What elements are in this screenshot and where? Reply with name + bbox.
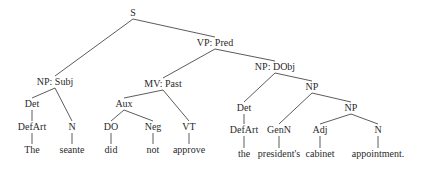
tree-node-aux: Aux — [114, 99, 133, 109]
tree-node-defart1: DefArt — [17, 122, 47, 132]
tree-edge-np-subj-det1 — [32, 88, 55, 98]
tree-edge-np2-genn — [279, 93, 312, 124]
tree-node-np3: NP — [344, 103, 359, 113]
tree-node-adj: Adj — [312, 125, 329, 135]
tree-edge-aux-neg — [124, 110, 153, 121]
tree-node-the1: The — [23, 145, 41, 155]
tree-node-det2: Det — [236, 103, 252, 113]
tree-node-np-dobj: NP: DObj — [254, 62, 296, 72]
tree-node-do: DO — [103, 122, 119, 132]
tree-edge-np-dobj-det2 — [244, 73, 275, 102]
tree-edge-np-dobj-np2 — [275, 73, 312, 81]
tree-node-vt: VT — [181, 122, 196, 132]
tree-node-did: did — [104, 145, 119, 155]
tree-node-defart2: DefArt — [229, 125, 259, 135]
tree-node-approve: approve — [172, 145, 206, 155]
tree-node-genn: GenN — [266, 125, 292, 135]
tree-node-vp-pred: VP: Pred — [196, 38, 234, 48]
tree-node-np2: NP — [305, 82, 320, 92]
tree-edge-np-subj-n1 — [55, 88, 72, 121]
tree-node-s: S — [129, 8, 137, 18]
tree-node-seante: seante — [59, 145, 86, 155]
tree-node-det1: Det — [24, 99, 40, 109]
tree-node-mv-past: MV: Past — [143, 79, 182, 89]
tree-edge-vp-pred-np-dobj — [215, 49, 275, 61]
tree-node-appointment: appointment. — [351, 149, 406, 159]
tree-edge-np3-adj — [320, 114, 351, 124]
tree-edge-vp-pred-mv-past — [163, 49, 215, 78]
tree-node-not: not — [146, 145, 161, 155]
tree-node-n2: N — [373, 125, 382, 135]
tree-edge-s-np-subj — [55, 19, 133, 76]
tree-node-presidents: president's — [257, 149, 301, 159]
tree-edge-np3-n2 — [351, 114, 378, 124]
tree-edge-np2-np3 — [312, 93, 351, 102]
tree-node-the2: the — [237, 149, 251, 159]
tree-node-cabinet: cabinet — [305, 149, 336, 159]
tree-edge-mv-past-aux — [124, 90, 163, 98]
tree-node-n1: N — [67, 122, 76, 132]
tree-edge-mv-past-vt — [163, 90, 189, 121]
tree-edge-s-vp-pred — [133, 19, 215, 37]
tree-node-neg: Neg — [144, 122, 163, 132]
syntax-tree-diagram: SNP: SubjVP: PredDetDefArtTheNseanteMV: … — [0, 0, 424, 169]
tree-edge-aux-do — [111, 110, 124, 121]
tree-node-np-subj: NP: Subj — [36, 77, 74, 87]
